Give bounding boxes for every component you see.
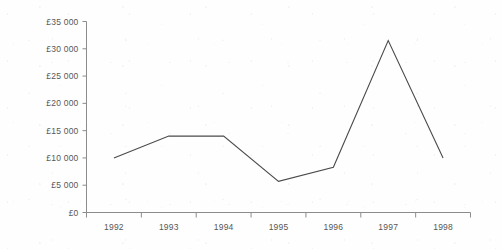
- chart-plot-area: £0£5 000£10 000£15 000£20 000£25 000£30 …: [0, 0, 502, 249]
- x-axis-tick-label: 1998: [433, 222, 453, 232]
- x-axis-tick-label: 1997: [378, 222, 398, 232]
- line-chart-figure: £0£5 000£10 000£15 000£20 000£25 000£30 …: [0, 0, 502, 249]
- y-axis-tick-label: £25 000: [46, 71, 78, 81]
- data-series-line: [114, 41, 443, 182]
- x-axis-tick-label: 1993: [159, 222, 179, 232]
- y-axis: £0£5 000£10 000£15 000£20 000£25 000£30 …: [46, 17, 86, 218]
- x-axis-tick-label: 1996: [323, 222, 343, 232]
- y-axis-tick-label: £35 000: [46, 17, 78, 27]
- y-axis-tick-label: £0: [69, 208, 79, 218]
- x-axis-tick-label: 1992: [104, 222, 124, 232]
- x-axis-tick-label: 1995: [269, 222, 289, 232]
- y-axis-tick-label: £5 000: [51, 180, 78, 190]
- y-axis-tick-label: £15 000: [46, 126, 78, 136]
- y-axis-tick-label: £20 000: [46, 98, 78, 108]
- y-axis-tick-label: £30 000: [46, 44, 78, 54]
- data-series-group: [114, 41, 443, 182]
- x-axis: 1992199319941995199619971998: [87, 213, 471, 232]
- x-axis-tick-label: 1994: [214, 222, 234, 232]
- y-axis-tick-label: £10 000: [46, 153, 78, 163]
